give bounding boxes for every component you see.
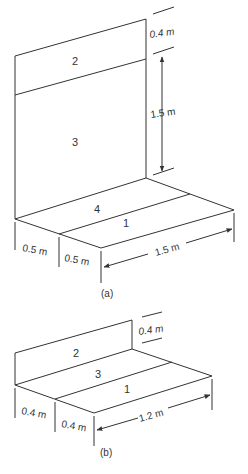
region-label-3-a: 3 [72, 136, 78, 148]
dim-arrow-length-left-a [104, 254, 148, 267]
dim-arrow-length-left-b [97, 418, 138, 430]
dim-label-depth-left-b: 0.4 m [21, 405, 48, 420]
figure-b: 2 3 1 0.4 m 0.4 m 0.4 m 1.2 m (b) [15, 312, 212, 458]
dim-arrow-length-right-a [186, 229, 232, 243]
region-label-4-a: 4 [94, 203, 100, 215]
region-label-2-b: 2 [73, 347, 79, 359]
dim-label-depth-left-a: 0.5 m [22, 242, 49, 257]
tick-top-b [142, 312, 162, 317]
dim-label-wall-height-a: 1.5 m [150, 106, 176, 120]
caption-a: (a) [101, 288, 113, 299]
dim-label-depth-front-b: 0.4 m [61, 418, 88, 433]
diagram-canvas: 2 3 4 1 0.4 m 1.5 m 0.5 m 0.5 m 1.5 m (a… [0, 0, 248, 474]
tick-bottom-b [142, 338, 162, 343]
tick-mid-a [153, 47, 174, 54]
dim-label-top-height-a: 0.4 m [149, 26, 175, 40]
tick-bottom-a [153, 168, 174, 175]
dim-label-wall-height-b: 0.4 m [138, 323, 164, 337]
dim-label-length-b: 1.2 m [138, 406, 165, 423]
floor-front-edge-a [101, 210, 234, 248]
region-label-3-b: 3 [95, 368, 101, 380]
tick-top-a [153, 7, 174, 14]
figure-a: 2 3 4 1 0.4 m 1.5 m 0.5 m 0.5 m 1.5 m (a… [15, 7, 234, 299]
region-label-1-a: 1 [123, 217, 129, 229]
wall-divider-a [15, 59, 146, 95]
floor-back-edge-a [15, 178, 146, 219]
caption-b: (b) [100, 447, 112, 458]
region-label-1-b: 1 [124, 383, 130, 395]
wall-outline-a [15, 19, 146, 219]
dim-arrow-length-right-b [168, 395, 210, 408]
region-label-2-a: 2 [72, 55, 78, 67]
dim-label-length-a: 1.5 m [154, 240, 181, 257]
dim-label-depth-front-a: 0.5 m [64, 252, 91, 267]
